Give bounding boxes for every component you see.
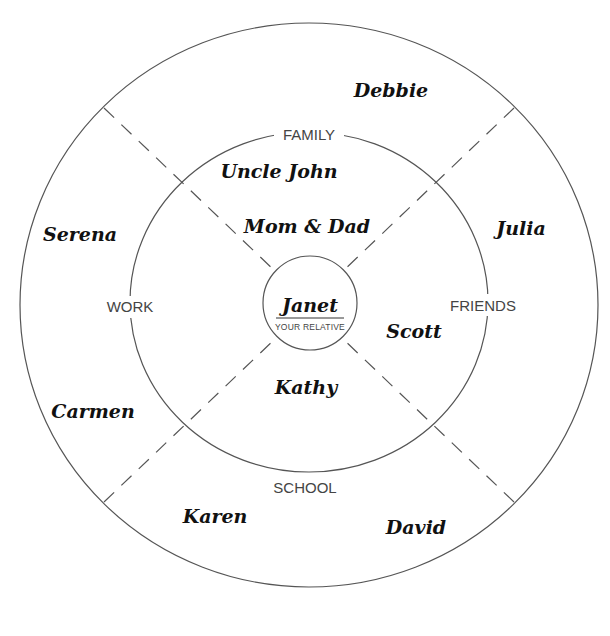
person-mom-dad: Mom & Dad [243,215,370,237]
category-school: SCHOOL [273,479,336,496]
person-serena: Serena [43,223,117,245]
person-debbie: Debbie [353,79,428,101]
person-uncle-john: Uncle John [220,160,337,182]
divider-bottom-right [342,338,514,502]
relationship-diagram: FAMILY FRIENDS SCHOOL WORK Janet YOUR RE… [0,0,610,636]
person-david: David [385,516,446,538]
person-julia: Julia [493,217,546,239]
category-friends: FRIENDS [450,297,516,314]
category-family: FAMILY [283,126,335,143]
divider-top-right [342,108,514,272]
divider-top-left [104,108,276,272]
person-scott: Scott [386,320,442,342]
center-subtitle: YOUR RELATIVE [275,322,345,332]
person-karen: Karen [182,505,248,527]
center-name: Janet [279,294,338,316]
person-kathy: Kathy [274,376,339,398]
person-carmen: Carmen [51,400,134,422]
category-work: WORK [107,298,154,315]
